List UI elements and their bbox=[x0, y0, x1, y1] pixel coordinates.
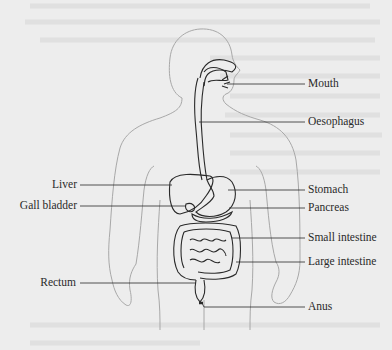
oesophagus bbox=[195, 78, 202, 180]
teeth bbox=[222, 76, 230, 88]
label-large-intestine: Large intestine bbox=[308, 256, 376, 268]
label-rectum: Rectum bbox=[40, 277, 76, 289]
leader-anus bbox=[202, 303, 305, 307]
label-mouth: Mouth bbox=[308, 78, 339, 90]
large-intestine bbox=[174, 223, 241, 280]
label-oesophagus: Oesophagus bbox=[308, 116, 364, 128]
label-stomach: Stomach bbox=[308, 184, 348, 196]
rectum bbox=[195, 280, 205, 302]
label-small-intestine: Small intestine bbox=[308, 232, 377, 244]
label-liver: Liver bbox=[52, 179, 77, 191]
stomach bbox=[196, 177, 235, 217]
organs bbox=[169, 60, 240, 303]
small-intestine bbox=[190, 239, 226, 263]
label-gall-bladder: Gall bladder bbox=[20, 200, 77, 212]
liver bbox=[169, 174, 212, 214]
leader-lines bbox=[80, 84, 305, 307]
digestive-system-diagram bbox=[0, 0, 392, 350]
label-anus: Anus bbox=[308, 301, 332, 313]
label-pancreas: Pancreas bbox=[308, 202, 349, 214]
mouth-cavity bbox=[200, 60, 236, 86]
